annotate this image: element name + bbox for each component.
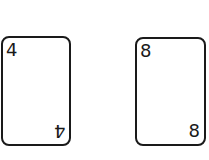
card-rank-bottom: 4 xyxy=(54,122,65,140)
card-rank-top: 4 xyxy=(6,41,17,59)
card-rank-bottom: 8 xyxy=(189,122,200,140)
card-left[interactable]: 4 4 xyxy=(1,36,71,146)
card-rank-top: 8 xyxy=(140,42,151,60)
card-right[interactable]: 8 8 xyxy=(135,37,206,146)
